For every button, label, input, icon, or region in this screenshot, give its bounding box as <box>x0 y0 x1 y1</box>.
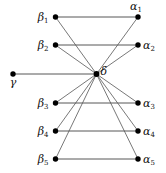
node-beta5 <box>53 156 58 161</box>
edge-delta-beta5 <box>56 74 97 159</box>
label-beta2: β2 <box>37 39 49 53</box>
label-beta3: β3 <box>37 97 49 111</box>
label-alpha4: α4 <box>143 125 155 139</box>
label-beta5: β5 <box>37 153 49 167</box>
label-alpha2: α2 <box>143 39 155 53</box>
label-beta4: β4 <box>37 125 49 139</box>
node-beta3 <box>53 100 58 105</box>
edge-delta-beta3 <box>56 74 97 103</box>
label-alpha3: α3 <box>143 97 155 111</box>
edge-delta-beta1 <box>56 17 97 74</box>
node-delta <box>94 71 100 77</box>
label-delta: δ <box>101 65 108 78</box>
edge-delta-alpha5 <box>97 74 139 159</box>
graph-diagram: β1β2β3β4β5α1α2α3α4α5γδ <box>0 0 166 173</box>
node-alpha3 <box>135 100 140 105</box>
edge-delta-alpha4 <box>97 74 139 131</box>
node-beta1 <box>53 14 58 19</box>
label-gamma: γ <box>10 76 17 89</box>
edge-delta-alpha3 <box>97 74 139 103</box>
edges-group <box>13 17 138 159</box>
edge-delta-beta4 <box>56 74 97 131</box>
node-beta2 <box>53 42 58 47</box>
edge-delta-beta2 <box>56 45 97 74</box>
nodes-group <box>10 14 140 161</box>
node-alpha5 <box>135 156 140 161</box>
node-alpha4 <box>135 128 140 133</box>
node-beta4 <box>53 128 58 133</box>
label-alpha5: α5 <box>143 153 155 167</box>
label-alpha1: α1 <box>130 0 142 14</box>
label-beta1: β1 <box>37 11 49 25</box>
node-alpha1 <box>135 14 140 19</box>
node-alpha2 <box>135 42 140 47</box>
